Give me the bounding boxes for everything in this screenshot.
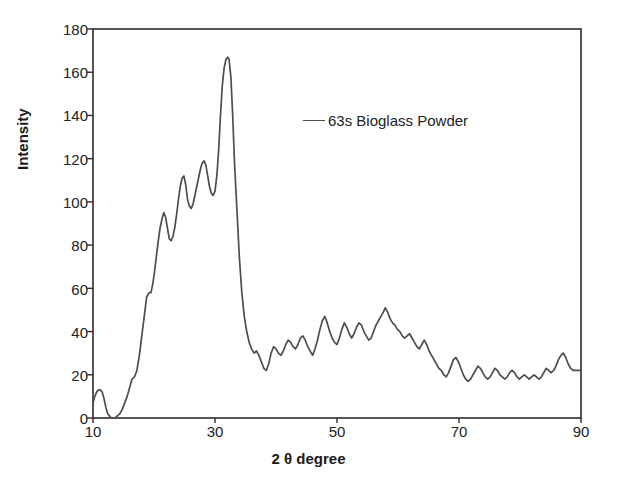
- xrd-chart-figure: Intensity 180 160 140 120 100 80 60 40 2…: [0, 0, 617, 488]
- y-axis-ticks: [87, 29, 93, 418]
- plot-canvas: [0, 0, 617, 488]
- data-series-63s-bioglass-powder: [93, 57, 581, 418]
